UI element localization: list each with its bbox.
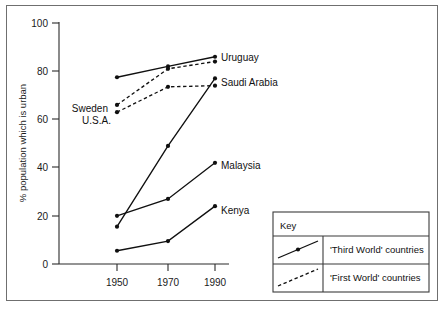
key-title: Key	[280, 220, 297, 231]
data-point	[115, 103, 119, 107]
series-u-s-a	[115, 84, 217, 115]
series-layer	[115, 55, 217, 253]
y-tick-label-80: 80	[37, 66, 49, 77]
series-malaysia	[115, 161, 217, 218]
series-line	[117, 78, 215, 226]
series-label-saudi-arabia: Saudi Arabia	[221, 77, 278, 88]
data-point	[213, 55, 217, 59]
x-tick-label-1990: 1990	[204, 277, 227, 288]
line-chart: 100 80 60 40 20 0 % population which is …	[7, 6, 437, 300]
data-point	[213, 161, 217, 165]
series-label-malaysia: Malaysia	[221, 160, 261, 171]
data-point	[115, 214, 119, 218]
data-point	[115, 249, 119, 253]
data-point	[166, 239, 170, 243]
y-axis: 100 80 60 40 20 0 % population which is …	[17, 18, 59, 270]
data-point	[115, 225, 119, 229]
key-legend: Key 'Third World' countries 'First World…	[273, 212, 429, 292]
key-label-first-world: 'First World' countries	[330, 272, 421, 283]
y-tick-label-0: 0	[42, 259, 48, 270]
data-point	[115, 75, 119, 79]
key-label-third-world: 'Third World' countries	[330, 244, 424, 255]
series-label-uruguay: Uruguay	[221, 52, 259, 63]
data-point	[213, 59, 217, 63]
data-point	[213, 84, 217, 88]
series-annotations: Uruguay Saudi Arabia Malaysia Kenya Swed…	[72, 52, 278, 216]
data-point	[166, 85, 170, 89]
data-point	[213, 204, 217, 208]
data-point	[213, 76, 217, 80]
series-saudi-arabia	[115, 76, 217, 228]
data-point	[166, 197, 170, 201]
series-line	[117, 206, 215, 251]
x-tick-label-1950: 1950	[106, 277, 129, 288]
y-tick-label-40: 40	[37, 162, 49, 173]
y-axis-title: % population which is urban	[17, 84, 28, 202]
series-label-kenya: Kenya	[221, 205, 250, 216]
chart-page: 100 80 60 40 20 0 % population which is …	[0, 0, 446, 309]
x-tick-label-1970: 1970	[157, 277, 180, 288]
data-point	[115, 110, 119, 114]
series-line	[117, 163, 215, 216]
data-point	[166, 67, 170, 71]
x-axis: 1950 1970 1990	[59, 264, 229, 288]
y-tick-label-100: 100	[31, 18, 48, 29]
data-point	[166, 144, 170, 148]
y-tick-label-20: 20	[37, 211, 49, 222]
series-uruguay	[115, 55, 217, 80]
series-label-sweden: Sweden	[72, 103, 108, 114]
chart-frame: 100 80 60 40 20 0 % population which is …	[6, 5, 438, 301]
y-tick-label-60: 60	[37, 114, 49, 125]
series-label-usa: U.S.A.	[82, 115, 111, 126]
